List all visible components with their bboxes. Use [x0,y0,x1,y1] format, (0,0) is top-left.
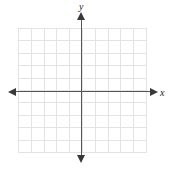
y-axis-up-arrow-icon [77,12,85,20]
y-axis-down-arrow-icon [77,155,85,163]
grid-right-border [146,28,147,152]
y-axis-label: y [79,2,83,12]
grid-bottom-border [18,152,147,153]
x-axis-label: x [160,88,164,98]
y-axis-line [81,14,82,160]
coordinate-plane-figure: x y [0,0,174,171]
x-axis-left-arrow-icon [8,88,16,96]
x-axis-right-arrow-icon [150,88,158,96]
x-axis-line [12,91,154,92]
